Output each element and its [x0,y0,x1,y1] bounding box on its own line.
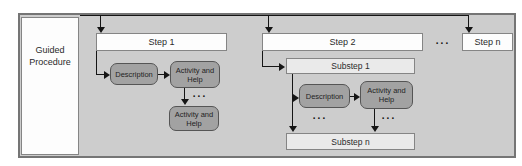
substep-activity-label: Activity and Help [363,86,410,104]
step1-activity1-node: Activity and Help [170,61,220,88]
substep1-bar: Substep 1 [286,58,415,74]
substepn-label: Substep n [331,137,369,147]
step1-branch-vline [96,51,97,74]
step2-branch-vline [262,51,263,66]
step1-bar: Step 1 [96,33,227,51]
step1-label: Step 1 [148,37,174,47]
top-connector-line [80,15,469,16]
step2-flow-ellipsis-right: ... [378,110,400,122]
substepn-bar: Substep n [286,133,415,150]
step1-activity1-label: Activity and Help [173,66,217,84]
guided-procedure-label: Guided Procedure [22,44,78,68]
step2-label: Step 2 [329,37,355,47]
substep-activity-node: Activity and Help [360,81,413,109]
substepn-left-arrow-icon [289,126,297,132]
step1-activity2-node: Activity and Help [169,106,219,131]
substepn-right-arrow-icon [371,126,379,132]
guided-procedure-box: Guided Procedure [21,17,79,155]
step1-description-label: Description [115,70,153,79]
stepn-box: Step n [462,33,513,51]
substep-description-label: Description [306,92,344,101]
guided-procedure-diagram: Guided Procedure Step 1 Step 2 ... Step … [0,0,522,166]
substep-activity-vline [374,109,375,127]
step1-description-node: Description [110,63,158,85]
step1-branch-hline [96,74,104,75]
step1-activity2-label: Activity and Help [172,110,216,128]
step2-bar: Step 2 [262,33,423,51]
step1-flow-ellipsis: ... [188,88,212,100]
stepn-label: Step n [474,37,500,47]
step2-flow-ellipsis-left: ... [308,110,332,122]
substep1-arrow-icon [279,63,285,71]
step2-branch-hline [262,66,279,67]
steps-ellipsis: ... [430,35,456,47]
substep1-label: Substep 1 [331,61,369,71]
substep-description-node: Description [299,84,350,108]
